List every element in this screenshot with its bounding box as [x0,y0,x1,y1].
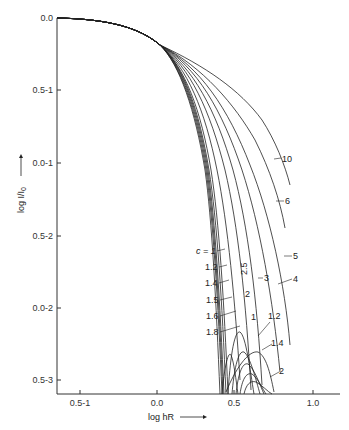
y-tick-label: 0.5-3 [32,375,53,385]
y-axis-title: log I/I0 [16,154,27,213]
y-tick-label: 0.0-1 [32,158,53,168]
x-tick-label: 0.5 [228,398,241,408]
label-max-1.4: 1.4 [271,338,284,348]
label-c-3: 3 [264,273,269,283]
label-c-1: c = 1 [196,246,216,256]
curve-c-10 [57,18,290,185]
label-c-1.8: 1.8 [206,327,219,337]
x-tick-label: 0.0 [151,398,164,408]
label-c-4: 4 [293,274,298,284]
label-max-2: 2 [279,366,284,376]
curve-c-2.5 [57,18,251,390]
svg-text:log hR: log hR [148,412,175,422]
label-c-6: 6 [285,196,290,206]
label-c-10: 10 [282,154,292,164]
label-c-2.5: 2.5 [239,262,249,275]
curves [57,18,290,394]
curve-c-6 [57,18,285,228]
label-c-5: 5 [293,251,298,261]
x-tick-label: 0.5-1 [70,398,91,408]
svg-text:log I/I0: log I/I0 [16,187,27,213]
label-c-1.5: 1.5 [206,295,219,305]
label-c-1.6: 1.6 [206,311,219,321]
x-axis-title: log hR [148,412,207,422]
curve-c-4 [57,18,280,372]
y-tick-label: 0.0-2 [32,303,53,313]
x-tick-label: 1.0 [307,398,320,408]
label-c-2: 2 [245,289,250,299]
y-tick-label: 0.5-1 [32,85,53,95]
label-max-1: 1 [251,312,256,322]
curve-c-1.6 [57,18,226,394]
label-c-1.2: 1.2 [205,262,218,272]
x-ticks: 0.5-1 0.0 0.5 1.0 [70,390,320,408]
y-tick-label: 0.5-2 [32,231,53,241]
curve-c-1 [57,18,220,394]
label-max-1.2: 1.2 [268,311,281,321]
curve-c-1.4 [57,18,223,394]
y-tick-label: 0.0 [40,13,53,23]
label-c-1.4: 1.4 [205,278,218,288]
curve-c-1.5 [57,18,224,394]
chart-canvas: 0.0 0.5-1 0.0-1 0.5-2 0.0-2 0.5-3 0.5-1 … [0,0,349,430]
